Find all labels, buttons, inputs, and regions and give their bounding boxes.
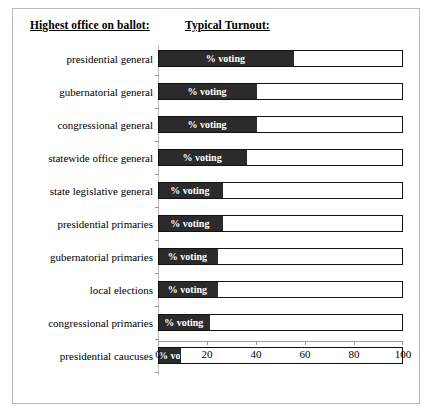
chart-frame: Highest office on ballot: Typical Turnou… bbox=[12, 8, 420, 404]
column-header-turnout: Typical Turnout: bbox=[185, 19, 270, 31]
bar-value-label: % voting bbox=[158, 248, 217, 265]
bars-container: % voting% voting% voting% voting% voting… bbox=[158, 45, 403, 375]
x-axis-tick-label: 60 bbox=[285, 348, 325, 360]
category-label: presidential caucuses bbox=[13, 350, 153, 362]
y-axis-tick bbox=[155, 174, 159, 175]
y-axis-tick bbox=[155, 372, 159, 373]
bar-value-label: % voting bbox=[158, 215, 222, 232]
x-axis-tick-label: 20 bbox=[187, 348, 227, 360]
bar-value-label: % voting bbox=[158, 50, 293, 67]
x-axis-tick-label: 100 bbox=[383, 348, 423, 360]
y-axis-tick bbox=[155, 240, 159, 241]
bar-row: % voting bbox=[158, 182, 403, 199]
bar-value-label: % voting bbox=[158, 116, 256, 133]
y-axis-tick bbox=[155, 273, 159, 274]
category-label: presidential primaries bbox=[13, 218, 153, 230]
x-axis-tick-label: 40 bbox=[236, 348, 276, 360]
x-axis-line bbox=[158, 341, 403, 342]
category-label: gubernatorial general bbox=[13, 86, 153, 98]
y-axis-tick bbox=[155, 306, 159, 307]
x-axis-tick bbox=[354, 341, 355, 345]
x-axis-tick-label: 80 bbox=[334, 348, 374, 360]
bar-row: % voting bbox=[158, 215, 403, 232]
y-axis-tick bbox=[155, 207, 159, 208]
x-axis: 020406080100 bbox=[158, 341, 403, 367]
category-label: congressional general bbox=[13, 119, 153, 131]
bar-row: % voting bbox=[158, 83, 403, 100]
y-axis-tick bbox=[155, 75, 159, 76]
x-axis-tick-label: 0 bbox=[138, 348, 178, 360]
bar-row: % voting bbox=[158, 281, 403, 298]
x-axis-tick bbox=[207, 341, 208, 345]
category-label: statewide office general bbox=[13, 152, 153, 164]
category-label: state legislative general bbox=[13, 185, 153, 197]
bar-row: % voting bbox=[158, 248, 403, 265]
x-axis-tick bbox=[158, 341, 159, 345]
x-axis-tick bbox=[305, 341, 306, 345]
bar-row: % voting bbox=[158, 149, 403, 166]
y-axis-tick bbox=[155, 141, 159, 142]
category-label: congressional primaries bbox=[13, 317, 153, 329]
bar-row: % voting bbox=[158, 50, 403, 67]
bar-row: % voting bbox=[158, 314, 403, 331]
bar-value-label: % voting bbox=[158, 83, 256, 100]
bar-value-label: % voting bbox=[158, 149, 246, 166]
category-label: local elections bbox=[13, 284, 153, 296]
bar-value-label: % voting bbox=[158, 182, 222, 199]
y-axis-tick bbox=[155, 339, 159, 340]
category-label: gubernatorial primaries bbox=[13, 251, 153, 263]
category-label-axis: presidential generalgubernatorial genera… bbox=[13, 45, 158, 375]
header-row: Highest office on ballot: Typical Turnou… bbox=[13, 9, 419, 45]
x-axis-tick bbox=[402, 341, 403, 345]
bar-value-label: % voting bbox=[158, 281, 217, 298]
x-axis-tick bbox=[256, 341, 257, 345]
y-axis-tick bbox=[155, 108, 159, 109]
column-header-office: Highest office on ballot: bbox=[30, 19, 150, 31]
bar-row: % voting bbox=[158, 116, 403, 133]
category-label: presidential general bbox=[13, 53, 153, 65]
bar-value-label: % voting bbox=[158, 314, 209, 331]
